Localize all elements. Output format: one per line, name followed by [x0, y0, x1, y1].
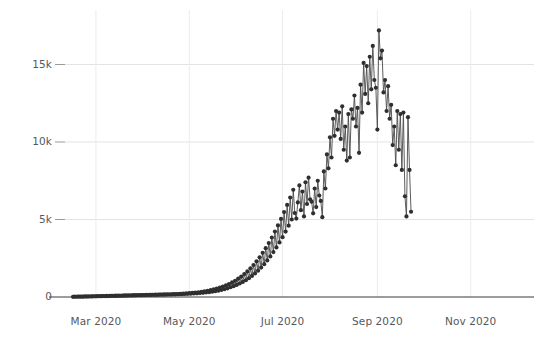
y-tick-label: 5k: [10, 213, 52, 225]
data-point: [386, 84, 390, 88]
data-point: [290, 217, 294, 221]
data-point: [372, 78, 376, 82]
data-point: [285, 203, 289, 207]
data-point: [303, 180, 307, 184]
data-point: [378, 56, 382, 60]
data-point: [268, 254, 272, 258]
data-point: [342, 148, 346, 152]
data-point: [352, 93, 356, 97]
data-point: [346, 112, 350, 116]
data-point: [279, 217, 283, 221]
data-point: [320, 215, 324, 219]
data-point: [388, 117, 392, 121]
data-point: [319, 199, 323, 203]
data-point: [391, 143, 395, 147]
data-point: [328, 135, 332, 139]
data-point: [316, 179, 320, 183]
data-point: [293, 211, 297, 215]
chart-container: 05k10k15k Mar 2020May 2020Jul 2020Sep 20…: [0, 0, 539, 358]
y-tick-label: 0: [10, 290, 52, 302]
data-point: [363, 92, 367, 96]
data-point: [340, 104, 344, 108]
data-point: [314, 205, 318, 209]
data-point: [349, 107, 353, 111]
data-point: [262, 262, 266, 266]
data-point: [383, 78, 387, 82]
data-point: [329, 155, 333, 159]
data-point: [254, 259, 258, 263]
data-point: [284, 229, 288, 233]
data-point: [381, 90, 385, 94]
data-point: [362, 61, 366, 65]
data-point: [270, 235, 274, 239]
data-point: [351, 117, 355, 121]
x-tick-label: Mar 2020: [51, 315, 141, 327]
data-point: [389, 103, 393, 107]
x-tick-label: Jul 2020: [238, 315, 328, 327]
data-point: [369, 87, 373, 91]
data-point: [406, 115, 410, 119]
data-point: [397, 148, 401, 152]
data-point: [245, 269, 249, 273]
data-point: [294, 216, 298, 220]
data-point: [322, 169, 326, 173]
data-point: [280, 235, 284, 239]
data-point: [265, 258, 269, 262]
data-point: [317, 193, 321, 197]
data-point: [360, 110, 364, 114]
data-point: [343, 124, 347, 128]
data-point: [302, 214, 306, 218]
data-point: [306, 176, 310, 180]
series-markers: [71, 28, 413, 299]
data-point: [259, 265, 263, 269]
x-tick-label: Nov 2020: [426, 315, 516, 327]
data-point: [371, 44, 375, 48]
chart-plot-area: [0, 0, 539, 358]
x-tick-label: May 2020: [144, 315, 234, 327]
data-point: [365, 64, 369, 68]
data-point: [404, 214, 408, 218]
data-point: [256, 269, 260, 273]
data-point: [377, 28, 381, 32]
data-point: [384, 109, 388, 113]
data-point: [366, 101, 370, 105]
data-point: [264, 246, 268, 250]
data-point: [276, 223, 280, 227]
data-point: [271, 250, 275, 254]
data-point: [299, 208, 303, 212]
data-point: [325, 152, 329, 156]
data-point: [354, 124, 358, 128]
data-point: [357, 151, 361, 155]
y-tick-label: 10k: [10, 135, 52, 147]
data-point: [339, 137, 343, 141]
data-point: [400, 168, 404, 172]
data-point: [323, 186, 327, 190]
data-point: [296, 200, 300, 204]
data-point: [407, 168, 411, 172]
data-point: [273, 229, 277, 233]
data-point: [300, 190, 304, 194]
data-point: [409, 210, 413, 214]
data-point: [274, 245, 278, 249]
data-point: [345, 159, 349, 163]
data-point: [395, 109, 399, 113]
data-point: [331, 117, 335, 121]
data-point: [326, 166, 330, 170]
data-point: [332, 134, 336, 138]
data-point: [392, 124, 396, 128]
data-point: [287, 224, 291, 228]
data-point: [374, 86, 378, 90]
data-point: [311, 211, 315, 215]
data-point: [297, 183, 301, 187]
data-point: [337, 110, 341, 114]
data-point: [355, 106, 359, 110]
data-point: [267, 241, 271, 245]
data-point: [310, 200, 314, 204]
data-point: [251, 263, 255, 267]
data-point: [403, 194, 407, 198]
data-point: [282, 210, 286, 214]
data-point: [288, 195, 292, 199]
data-point: [261, 251, 265, 255]
data-point: [336, 128, 340, 132]
data-point: [348, 155, 352, 159]
